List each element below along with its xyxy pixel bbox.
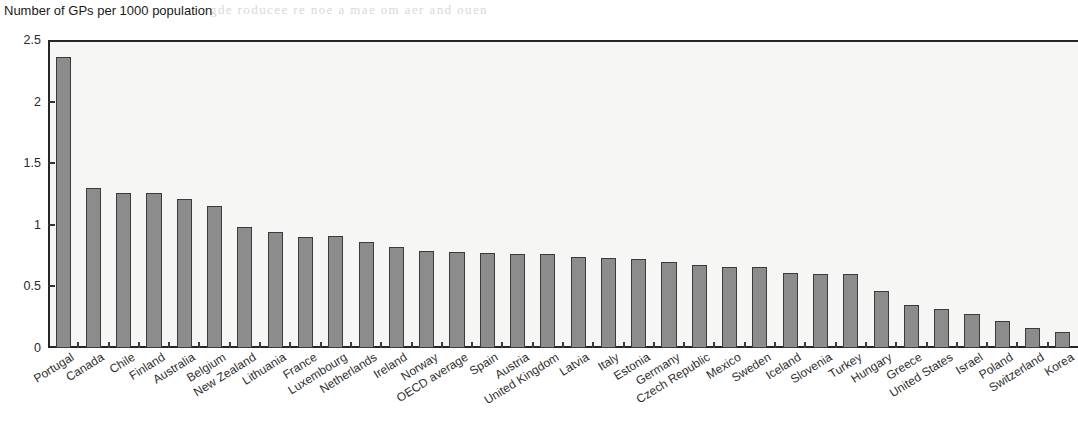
x-axis-tick-mark (380, 342, 382, 348)
bar[interactable] (419, 251, 434, 348)
bar-slot (1055, 40, 1070, 348)
x-axis-tick-mark (653, 342, 655, 348)
bar-slot (389, 40, 404, 348)
bar[interactable] (328, 236, 343, 348)
x-axis-tick-mark (350, 342, 352, 348)
bar-slot (359, 40, 374, 348)
bar[interactable] (964, 314, 979, 348)
bar-slot (449, 40, 464, 348)
bar[interactable] (843, 274, 858, 348)
bar[interactable] (359, 242, 374, 348)
bar[interactable] (783, 273, 798, 348)
y-axis-tick-label: 0.5 (24, 279, 41, 293)
x-axis-tick-mark (411, 342, 413, 348)
x-axis-tick-mark (895, 342, 897, 348)
y-axis-tick-label: 1 (34, 218, 41, 232)
x-axis-tick-mark (744, 342, 746, 348)
bar[interactable] (995, 321, 1010, 348)
bar-slot (1025, 40, 1040, 348)
bar-slot (934, 40, 949, 348)
bar-slot (116, 40, 131, 348)
bar[interactable] (661, 262, 676, 348)
bar-slot (328, 40, 343, 348)
bar[interactable] (389, 247, 404, 348)
bar-slot (86, 40, 101, 348)
x-axis-tick-mark (1047, 342, 1049, 348)
bar[interactable] (449, 252, 464, 348)
bar[interactable] (86, 188, 101, 348)
bar[interactable] (268, 232, 283, 348)
bar-slot (783, 40, 798, 348)
x-axis-tick-mark (804, 342, 806, 348)
x-axis-tick-mark (198, 342, 200, 348)
x-axis-tick-mark (1016, 342, 1018, 348)
bar-slot (480, 40, 495, 348)
bar[interactable] (904, 305, 919, 348)
x-axis-tick-mark (713, 342, 715, 348)
y-axis-tick-label: 2.5 (24, 33, 41, 47)
bar-slot (904, 40, 919, 348)
x-axis-tick-mark (865, 342, 867, 348)
bar-slot (752, 40, 767, 348)
bar-slot (722, 40, 737, 348)
bar[interactable] (480, 253, 495, 348)
x-axis-tick-mark (441, 342, 443, 348)
bar-slot (510, 40, 525, 348)
bar[interactable] (510, 254, 525, 348)
bar-slot (298, 40, 313, 348)
x-axis-tick-mark (259, 342, 261, 348)
x-axis-tick-mark (986, 342, 988, 348)
x-axis-tick-mark (138, 342, 140, 348)
bar-slot (177, 40, 192, 348)
x-axis-tick-mark (77, 342, 79, 348)
bar[interactable] (237, 227, 252, 348)
bar-slot (207, 40, 222, 348)
x-axis-tick-mark (471, 342, 473, 348)
x-axis-tick-mark (562, 342, 564, 348)
bar-slot (692, 40, 707, 348)
bar-slot (874, 40, 889, 348)
x-axis-tick-mark (108, 342, 110, 348)
x-axis-tick-mark (956, 342, 958, 348)
bar[interactable] (298, 237, 313, 348)
bar-slot (661, 40, 676, 348)
bar-slot (843, 40, 858, 348)
bar[interactable] (207, 206, 222, 348)
x-axis-tick-mark (289, 342, 291, 348)
bar-slot (571, 40, 586, 348)
bar[interactable] (874, 291, 889, 348)
bar-slot (56, 40, 71, 348)
x-axis-tick-mark (835, 342, 837, 348)
x-axis-tick-mark (683, 342, 685, 348)
x-axis-tick-mark (774, 342, 776, 348)
bar-slot (419, 40, 434, 348)
bar[interactable] (601, 258, 616, 348)
bar-chart: Number of GPs per 1000 population 00.511… (0, 0, 1078, 435)
bars-container (48, 40, 1078, 348)
x-axis-tick-mark (229, 342, 231, 348)
bar[interactable] (934, 309, 949, 348)
bar[interactable] (116, 193, 131, 348)
bar[interactable] (813, 274, 828, 348)
bar-slot (813, 40, 828, 348)
bar[interactable] (540, 254, 555, 348)
x-axis-tick-mark (623, 342, 625, 348)
bar[interactable] (722, 267, 737, 348)
bar[interactable] (571, 257, 586, 348)
bar[interactable] (1025, 328, 1040, 348)
y-axis-tick-label: 2 (34, 95, 41, 109)
x-axis-tick-mark (501, 342, 503, 348)
bar[interactable] (631, 259, 646, 348)
bar-slot (601, 40, 616, 348)
bar-slot (964, 40, 979, 348)
bar[interactable] (692, 265, 707, 348)
bar-slot (237, 40, 252, 348)
bar[interactable] (56, 57, 71, 348)
x-axis-tick-mark (320, 342, 322, 348)
bar[interactable] (146, 193, 161, 348)
bar[interactable] (1055, 332, 1070, 348)
y-axis-tick-label: 1.5 (24, 156, 41, 170)
x-axis-tick-mark (168, 342, 170, 348)
bar[interactable] (752, 267, 767, 348)
bar[interactable] (177, 199, 192, 348)
